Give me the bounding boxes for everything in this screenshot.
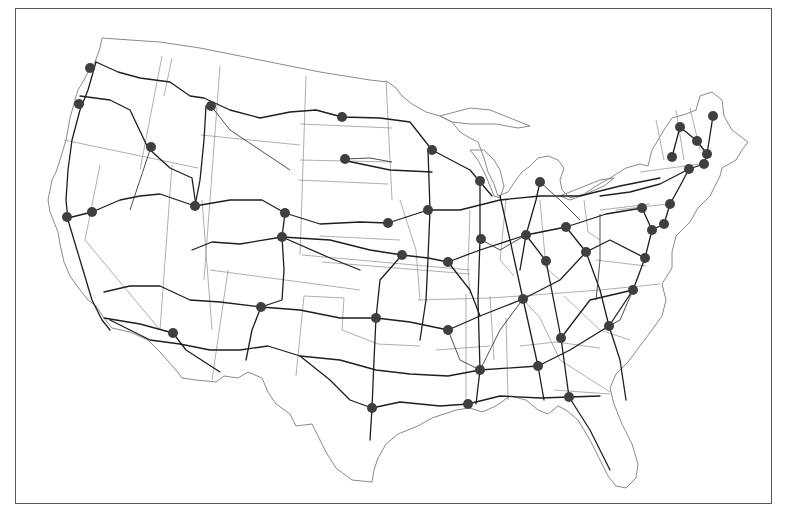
city-marker (476, 234, 486, 244)
city-marker (659, 219, 669, 229)
city-marker (535, 177, 545, 187)
city-marker (533, 361, 543, 371)
city-marker (280, 208, 290, 218)
city-marker (277, 232, 287, 242)
city-marker (521, 230, 531, 240)
city-marker (684, 164, 694, 174)
us-map (0, 0, 789, 512)
city-marker (647, 225, 657, 235)
city-marker (74, 99, 84, 109)
city-marker (443, 325, 453, 335)
city-marker (475, 365, 485, 375)
city-marker (637, 203, 647, 213)
city-marker (340, 154, 350, 164)
city-marker (640, 253, 650, 263)
city-marker (190, 201, 200, 211)
city-marker (256, 302, 266, 312)
city-marker (443, 257, 453, 267)
city-marker (708, 111, 718, 121)
city-marker (423, 205, 433, 215)
city-marker (168, 328, 178, 338)
lake-superior (440, 108, 530, 128)
city-marker (463, 399, 473, 409)
city-marker (564, 392, 574, 402)
city-marker (581, 247, 591, 257)
city-marker (702, 149, 712, 159)
city-marker (675, 122, 685, 132)
city-marker (699, 159, 709, 169)
city-marker (667, 152, 677, 162)
city-marker (337, 112, 347, 122)
city-marker (628, 285, 638, 295)
city-marker (561, 222, 571, 232)
city-marker (665, 199, 675, 209)
state-borders (64, 56, 700, 400)
city-marker (371, 313, 381, 323)
city-marker (383, 218, 393, 228)
city-marker (541, 256, 551, 266)
city-marker (556, 333, 566, 343)
city-marker (518, 294, 528, 304)
city-marker (427, 145, 437, 155)
city-marker (87, 207, 97, 217)
city-marker (206, 101, 216, 111)
city-marker (146, 142, 156, 152)
city-marker (367, 403, 377, 413)
secondary-roads (130, 106, 633, 370)
city-marker (397, 250, 407, 260)
city-marker (62, 212, 72, 222)
city-marker (692, 136, 702, 146)
city-marker (604, 321, 614, 331)
city-marker (475, 176, 485, 186)
city-marker (85, 63, 95, 73)
